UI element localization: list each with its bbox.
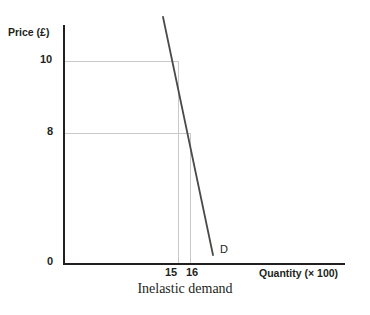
gridline-quantity-15 (178, 61, 179, 264)
y-axis-line (63, 25, 65, 265)
x-tick-label-15: 15 (165, 266, 177, 278)
gridline-price-8 (63, 133, 191, 134)
y-axis-title: Price (£) (8, 26, 49, 38)
x-axis-title: Quantity (× 100) (259, 267, 338, 279)
gridline-price-10 (63, 61, 179, 62)
y-tick-label-8: 8 (47, 125, 53, 137)
inelastic-demand-chart: Price (£) Quantity (× 100) 10 8 0 15 16 … (0, 0, 370, 315)
x-axis-line (63, 263, 345, 265)
figure-caption: Inelastic demand (0, 281, 370, 297)
y-tick-label-10: 10 (40, 53, 52, 65)
demand-curve-label: D (220, 243, 228, 255)
origin-tick-label: 0 (47, 255, 53, 267)
x-tick-label-16: 16 (186, 266, 198, 278)
demand-curve-line (163, 17, 213, 255)
gridline-quantity-16 (190, 133, 191, 264)
